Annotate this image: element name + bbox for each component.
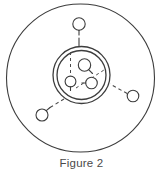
figure-caption: Figure 2 <box>0 156 163 170</box>
inner-node-left-circle <box>65 76 76 87</box>
leader-line-bottomleft-dashed <box>50 99 64 108</box>
figure-diagram <box>0 0 163 177</box>
external-node-right-circle <box>127 90 139 102</box>
annulus-inner-circle <box>57 51 106 100</box>
external-node-bottomleft-stem <box>46 108 50 111</box>
leader-line-right-dashed <box>110 84 127 94</box>
external-node-top-circle <box>73 18 85 30</box>
figure-container: Figure 2 <box>0 0 163 177</box>
external-node-bottomleft-circle <box>36 109 48 121</box>
inner-node-right-circle <box>86 77 98 89</box>
